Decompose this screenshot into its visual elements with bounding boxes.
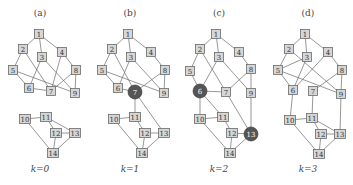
node-5: 5 [9,66,18,75]
node-7: 7 [47,87,56,96]
edge-10-14 [25,119,53,153]
node-7: 7 [128,85,142,99]
node-1: 1 [212,30,221,39]
node-10: 10 [20,115,31,124]
node-7: 7 [222,88,231,97]
node-11: 11 [307,114,318,123]
node-label: 3 [217,54,221,62]
panel-b: (b)1234567891011121314k=1 [98,8,170,174]
node-label: 1 [214,31,218,39]
node-11: 11 [41,113,52,122]
node-label: 4 [237,49,242,57]
edge-7-13 [226,92,251,134]
node-label: 6 [291,87,296,95]
node-label: 7 [133,89,137,97]
node-3: 3 [303,53,312,62]
node-label: 12 [141,130,150,138]
node-label: 11 [42,114,51,122]
node-9: 9 [247,89,256,98]
node-5: 5 [186,67,195,76]
node-1: 1 [124,30,133,39]
node-4: 4 [324,48,333,57]
node-5: 5 [274,66,283,75]
node-14: 14 [314,150,325,159]
node-label: 5 [188,68,192,76]
node-label: 1 [126,31,130,39]
node-12: 12 [227,129,238,138]
node-8: 8 [72,66,81,75]
node-label: 13 [71,130,80,138]
node-label: 5 [11,67,15,75]
node-label: 1 [37,31,41,39]
node-label: 6 [198,88,203,96]
node-12: 12 [316,130,327,139]
node-label: 11 [131,114,140,122]
node-10: 10 [109,115,120,124]
node-7: 7 [309,87,318,96]
node-6: 6 [114,84,123,93]
node-6: 6 [25,84,34,93]
node-label: 14 [315,151,324,159]
node-1: 1 [35,30,44,39]
panel-title: (b) [124,8,137,18]
node-9: 9 [71,89,80,98]
node-label: 9 [339,91,343,99]
node-2: 2 [196,45,205,54]
node-label: 8 [74,67,78,75]
edge-10-14 [114,119,142,153]
panel-title: (d) [302,8,315,18]
node-label: 1 [303,31,307,39]
node-label: 2 [21,46,25,54]
node-label: 3 [129,54,133,62]
node-label: 13 [160,130,169,138]
node-11: 11 [218,113,229,122]
edge-3-6 [293,57,307,90]
k-label: k=0 [31,164,50,174]
node-13: 13 [244,127,258,141]
node-label: 5 [276,67,280,75]
node-9: 9 [337,90,346,99]
node-14: 14 [48,149,59,158]
node-label: 12 [317,131,326,139]
panel-c: (c)1234567891011121314k=2 [186,8,259,174]
node-label: 2 [287,46,291,54]
node-12: 12 [51,129,62,138]
node-label: 14 [138,150,147,158]
node-label: 5 [100,67,104,75]
edge-10-14 [200,119,230,153]
node-label: 10 [196,116,205,124]
node-9: 9 [160,89,169,98]
node-label: 13 [336,131,345,139]
node-4: 4 [58,48,67,57]
k-label: k=3 [299,164,318,174]
node-label: 9 [162,90,166,98]
node-label: 4 [326,49,331,57]
node-3: 3 [38,53,47,62]
node-4: 4 [147,48,156,57]
node-14: 14 [225,149,236,158]
node-label: 3 [305,54,309,62]
node-14: 14 [137,149,148,158]
node-5: 5 [98,66,107,75]
graph-figure: (a)1234567891011121314k=0(b)123456789101… [0,0,353,185]
node-label: 10 [286,117,295,125]
node-label: 12 [52,130,61,138]
node-label: 8 [249,66,253,74]
node-label: 7 [311,88,315,96]
edge-4-7 [51,52,62,91]
node-2: 2 [19,45,28,54]
node-8: 8 [247,65,256,74]
node-13: 13 [335,130,346,139]
node-label: 8 [163,67,167,75]
node-label: 4 [60,49,65,57]
node-6: 6 [289,86,298,95]
node-label: 2 [110,46,114,54]
node-2: 2 [285,45,294,54]
node-3: 3 [215,53,224,62]
node-12: 12 [140,129,151,138]
node-label: 11 [219,114,228,122]
node-label: 14 [226,150,235,158]
node-10: 10 [195,115,206,124]
k-label: k=1 [121,164,140,174]
edge-10-14 [290,120,319,154]
